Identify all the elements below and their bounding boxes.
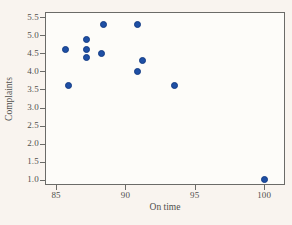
y-tick-label: 4.0: [14, 66, 39, 77]
y-axis-label: Complaints: [4, 77, 14, 121]
x-axis-label: On time: [45, 202, 285, 212]
y-tick-label: 1.5: [14, 156, 39, 167]
y-tick-mark: [40, 89, 45, 90]
y-tick-label: 3.5: [14, 84, 39, 95]
data-point: [261, 176, 268, 183]
data-point: [100, 21, 107, 28]
data-point: [83, 36, 90, 43]
y-tick-label: 5.5: [14, 12, 39, 23]
x-tick-label: 90: [110, 190, 140, 201]
data-point: [139, 57, 146, 64]
x-tick-label: 95: [180, 190, 210, 201]
y-tick-label: 4.5: [14, 48, 39, 59]
plot-area: [45, 12, 285, 185]
y-tick-mark: [40, 180, 45, 181]
y-tick-mark: [40, 144, 45, 145]
y-tick-mark: [40, 17, 45, 18]
y-tick-mark: [40, 108, 45, 109]
y-tick-label: 5.0: [14, 30, 39, 41]
y-tick-label: 3.0: [14, 102, 39, 113]
y-tick-label: 2.0: [14, 138, 39, 149]
x-tick-label: 100: [249, 190, 279, 201]
y-tick-mark: [40, 71, 45, 72]
y-tick-mark: [40, 162, 45, 163]
y-tick-mark: [40, 35, 45, 36]
scatter-figure: On time Complaints 5.55.04.54.03.53.02.5…: [0, 0, 292, 225]
y-tick-mark: [40, 126, 45, 127]
x-tick-label: 85: [41, 190, 71, 201]
y-tick-mark: [40, 53, 45, 54]
y-tick-label: 1.0: [14, 174, 39, 185]
data-point: [83, 54, 90, 61]
data-point: [171, 82, 178, 89]
y-tick-label: 2.5: [14, 120, 39, 131]
